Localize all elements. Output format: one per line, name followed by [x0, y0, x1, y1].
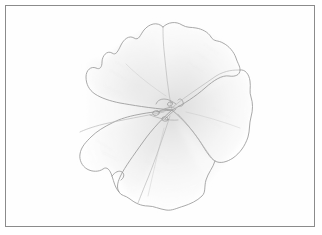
image-canvas: flower-bloom-face-on [0, 0, 322, 235]
flower-pencil-drawing [0, 0, 322, 235]
